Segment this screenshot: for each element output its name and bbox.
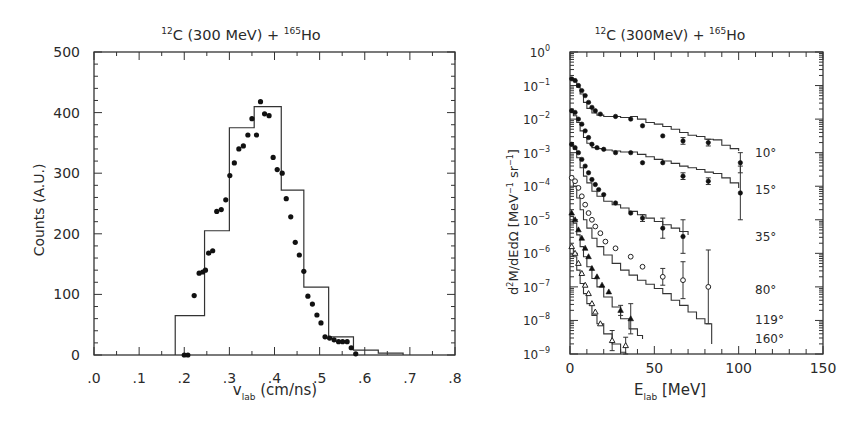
svg-text:50: 50: [645, 360, 663, 376]
chart-title: 12C (300 MeV) + 165Ho: [161, 26, 321, 43]
svg-text:10−5: 10−5: [523, 212, 550, 228]
svg-text:10−4: 10−4: [523, 178, 550, 194]
y-axis-label: Counts (A.U.): [31, 164, 47, 257]
x-axis-label: Elab [MeV]: [634, 381, 706, 402]
svg-text:10−7: 10−7: [523, 279, 550, 295]
velocity-histogram-chart: 12C (300 MeV) + 165Ho 0100200300400500 .…: [31, 26, 462, 402]
svg-text:200: 200: [53, 226, 80, 242]
energy-spectra-chart: 12C (300MeV) + 165Ho 10010−110−210−310−4…: [506, 26, 836, 402]
svg-text:10−9: 10−9: [523, 346, 550, 362]
svg-text:0: 0: [71, 347, 80, 363]
y-tick-labels: 0100200300400500: [53, 44, 80, 363]
angle-label: 119°: [755, 313, 784, 327]
svg-text:.6: .6: [358, 370, 371, 386]
svg-text:.0: .0: [87, 370, 100, 386]
svg-text:500: 500: [53, 44, 80, 60]
angle-label: 160°: [755, 332, 784, 346]
y-axis-label: d2M/dEdΩ [MeV−1 sr−1]: [506, 149, 521, 295]
svg-text:10−3: 10−3: [523, 145, 550, 161]
svg-text:150: 150: [810, 360, 837, 376]
svg-text:.2: .2: [178, 370, 191, 386]
x-tick-labels: 050100150: [566, 360, 837, 376]
figure: 12C (300 MeV) + 165Ho 0100200300400500 .…: [0, 0, 864, 423]
svg-text:10−6: 10−6: [523, 245, 550, 261]
svg-text:10−2: 10−2: [523, 111, 550, 127]
angle-label: 10°: [755, 146, 776, 160]
svg-text:10−8: 10−8: [523, 312, 550, 328]
svg-text:.1: .1: [132, 370, 145, 386]
angle-label: 80°: [755, 283, 776, 297]
axis-ticks: [94, 52, 455, 355]
chart-title: 12C (300MeV) + 165Ho: [595, 26, 746, 43]
svg-text:.7: .7: [403, 370, 416, 386]
angle-labels: 10°15°35°80°119°160°: [755, 146, 784, 346]
svg-text:100: 100: [530, 44, 550, 60]
y-tick-labels: 10010−110−210−310−410−510−610−710−810−9: [523, 44, 550, 362]
angle-label: 15°: [755, 183, 776, 197]
axis-ticks: [570, 52, 823, 354]
svg-text:400: 400: [53, 105, 80, 121]
svg-text:300: 300: [53, 165, 80, 181]
x-axis-label: vlab (cm/ns): [233, 381, 317, 402]
plot-frame: [94, 52, 455, 355]
svg-text:100: 100: [53, 286, 80, 302]
spectra-series: [569, 77, 743, 354]
svg-text:100: 100: [725, 360, 752, 376]
svg-text:.8: .8: [448, 370, 461, 386]
histogram-series: [175, 107, 403, 355]
angle-label: 35°: [755, 230, 776, 244]
svg-text:10−1: 10−1: [523, 78, 550, 94]
svg-text:0: 0: [566, 360, 575, 376]
plot-frame: [570, 52, 823, 354]
data-points: [182, 99, 359, 358]
